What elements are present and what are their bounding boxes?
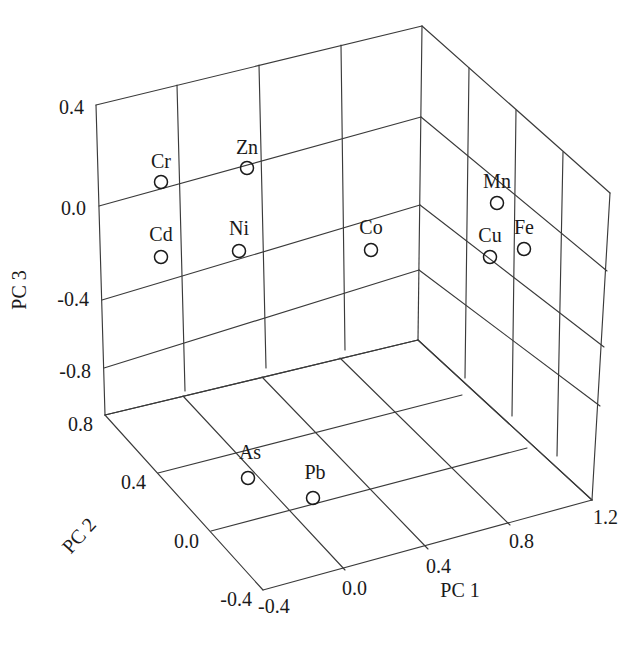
marker-circle [484, 251, 497, 264]
wall-right-x-line-00 [465, 68, 469, 378]
tick-label-x-m04: -0.4 [258, 595, 290, 617]
data-point-co[interactable]: Co [359, 216, 382, 257]
point-label-zn: Zn [236, 136, 258, 158]
tick-label-z-00: 0.0 [61, 197, 86, 219]
wall-right-x-line-04 [512, 110, 516, 416]
wall-left-y-edge-08 [96, 105, 105, 415]
floor-x-line-04 [262, 377, 428, 549]
tick-label-y-m04: -0.4 [220, 588, 252, 610]
marker-circle [155, 251, 168, 264]
tick-label-x-12: 1.2 [593, 506, 618, 528]
wall-left-y-edge-back [418, 26, 422, 340]
tick-label-x-04: 0.4 [426, 555, 451, 577]
point-label-cr: Cr [151, 150, 171, 172]
data-point-cd[interactable]: Cd [149, 223, 172, 264]
floor-x-line-08 [340, 358, 510, 525]
axis-title-pc2: PC 2 [57, 513, 100, 557]
floor-x-line-00 [183, 396, 345, 570]
marker-circle [491, 197, 504, 210]
point-label-ni: Ni [229, 217, 249, 239]
tick-label-z-m04: -0.4 [57, 288, 89, 310]
point-label-fe: Fe [514, 216, 534, 238]
wall-right-z-line-m04 [420, 205, 604, 347]
marker-circle [307, 492, 320, 505]
data-point-zn[interactable]: Zn [236, 136, 258, 175]
point-label-cd: Cd [149, 223, 172, 245]
scatter-plot-3d: Cr Zn Cd Ni Co Mn [0, 0, 639, 650]
floor-x-edge-12 [418, 340, 592, 500]
tick-label-z-m08: -0.8 [59, 360, 91, 382]
data-point-mn[interactable]: Mn [483, 170, 511, 210]
marker-circle [241, 162, 254, 175]
floor-y-line-08 [105, 340, 418, 415]
axis-title-pc3: PC 3 [8, 270, 30, 309]
marker-circle [155, 176, 168, 189]
pc1-axis-labels: -0.4 0.0 0.4 0.8 1.2 PC 1 [258, 506, 618, 617]
data-point-cu[interactable]: Cu [478, 224, 501, 264]
point-label-mn: Mn [483, 170, 511, 192]
point-label-as: As [239, 441, 261, 463]
tick-label-y-04: 0.4 [121, 471, 146, 493]
tick-label-y-00: 0.0 [174, 530, 199, 552]
wall-left-y-line-00 [259, 65, 266, 368]
tick-label-z-04: 0.4 [59, 96, 84, 118]
wall-right-x-edge-12 [592, 193, 610, 500]
marker-circle [518, 243, 531, 256]
marker-circle [365, 244, 378, 257]
axis-title-pc1: PC 1 [440, 579, 479, 601]
marker-circle [242, 472, 255, 485]
data-point-cr[interactable]: Cr [151, 150, 171, 189]
wall-left-y-line-m04 [341, 45, 345, 350]
tick-label-x-00: 0.0 [342, 577, 367, 599]
wall-right-z-line-m08 [419, 270, 600, 406]
floor-plane [105, 340, 592, 590]
point-label-cu: Cu [478, 224, 501, 246]
tick-label-y-08: 0.8 [68, 413, 93, 435]
data-point-as[interactable]: As [239, 441, 261, 485]
wall-right-x-line-08 [557, 152, 563, 456]
data-point-fe[interactable]: Fe [514, 216, 534, 256]
point-label-co: Co [359, 216, 382, 238]
point-label-pb: Pb [304, 461, 325, 483]
pc2-axis-labels: 0.8 0.4 0.0 -0.4 PC 2 [57, 413, 252, 610]
marker-circle [233, 245, 246, 258]
data-point-pb[interactable]: Pb [304, 461, 325, 505]
data-point-ni[interactable]: Ni [229, 217, 249, 258]
data-points-group: Cr Zn Cd Ni Co Mn [149, 136, 534, 505]
pc3-axis-labels: 0.4 0.0 -0.4 -0.8 PC 3 [8, 96, 91, 382]
plot-canvas: Cr Zn Cd Ni Co Mn [0, 0, 639, 650]
tick-label-x-08: 0.8 [509, 530, 534, 552]
